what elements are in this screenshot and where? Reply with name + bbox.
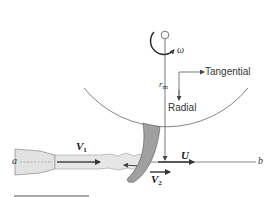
u-label: U	[181, 150, 189, 161]
tangential-arrow-line	[179, 72, 204, 97]
radial-label: Radial	[168, 103, 196, 113]
a-label: a	[12, 156, 17, 166]
scale-bar	[14, 195, 89, 197]
v2-label: V2	[151, 174, 162, 187]
wheel-rim-arc	[84, 88, 248, 127]
rm-subscript: m	[163, 83, 168, 91]
b-label: b	[258, 156, 263, 166]
v2-subscript: 2	[158, 179, 162, 187]
v1-label: V1	[76, 141, 87, 154]
rm-label: rm	[159, 80, 168, 91]
diagram-canvas	[0, 0, 272, 197]
pelton-wheel-diagram: ω rm Tangential Radial V1 V2 U a b	[0, 0, 272, 197]
omega-label: ω	[177, 45, 184, 55]
shaft-center-icon	[161, 31, 169, 39]
v1-subscript: 1	[83, 146, 87, 154]
tangential-label: Tangential	[205, 67, 251, 77]
